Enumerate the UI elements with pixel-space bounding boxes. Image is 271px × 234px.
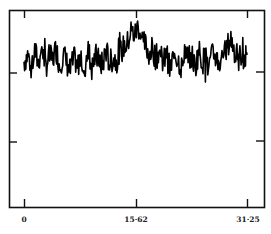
x-axis-labels: 0 15·62 31·25	[21, 215, 259, 224]
x-tick-label-1: 15·62	[124, 215, 148, 224]
time-series-chart: 0 15·62 31·25	[0, 0, 271, 234]
x-tick-label-0: 0	[21, 215, 26, 224]
x-tick-label-2: 31·25	[236, 215, 260, 224]
signal-trace	[24, 21, 247, 82]
bottom-ticks	[25, 199, 248, 207]
side-ticks	[9, 72, 264, 142]
